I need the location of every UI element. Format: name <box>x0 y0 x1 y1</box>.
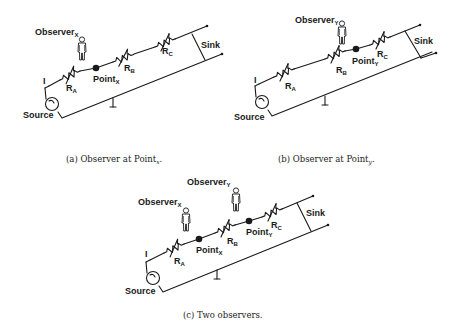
source-label: Source <box>23 110 54 120</box>
rc-label: RC <box>377 49 389 60</box>
resistor-rb-icon <box>322 44 347 64</box>
current-source-icon <box>45 86 59 111</box>
caption-c: (c) Two observers. <box>183 310 263 320</box>
sink-label: Sink <box>414 36 434 46</box>
rc-label: RC <box>271 220 283 231</box>
panel-b: ObserverY I RA RB PointY RC Sink Source <box>234 15 437 122</box>
point-x-label: PointX <box>196 245 223 256</box>
rb-label: RB <box>227 236 239 247</box>
observer-y-figure-icon <box>338 21 346 44</box>
observer-x-label: ObserverX <box>138 197 182 208</box>
current-label: I <box>145 249 148 259</box>
return-wire <box>58 54 222 118</box>
source-label: Source <box>234 112 265 122</box>
ra-label: RA <box>285 81 297 92</box>
observer-x-figure-icon <box>78 37 86 60</box>
ground-icon <box>322 96 328 105</box>
sink-label: Sink <box>201 40 221 50</box>
caption-a: (a) Observer at Pointx. <box>66 154 162 165</box>
observer-x-figure-icon <box>182 208 190 231</box>
sink-label: Sink <box>306 208 326 218</box>
rb-label: RB <box>336 65 348 76</box>
resistor-rc-icon <box>367 30 392 50</box>
ra-label: RA <box>174 256 186 267</box>
resistor-rb-icon <box>212 218 237 238</box>
point-y-label: PointY <box>246 227 273 238</box>
point-x-label: PointX <box>93 74 120 85</box>
current-source-icon <box>146 260 160 285</box>
rc-label: RC <box>162 46 174 57</box>
ground-icon <box>110 98 116 107</box>
observer-y-figure-icon <box>232 188 240 211</box>
point-y-label: PointY <box>352 56 379 67</box>
caption-b: (b) Observer at Pointy. <box>278 154 375 166</box>
current-label: I <box>43 76 46 86</box>
observer-y-label: ObserverY <box>187 177 231 188</box>
current-source-icon <box>255 84 269 109</box>
panel-c: ObserverX ObserverY I RA PointX RB Point… <box>125 177 329 296</box>
resistor-ra-icon <box>271 62 296 82</box>
observer-x-label: ObserverX <box>35 27 79 38</box>
rb-label: RB <box>124 63 136 74</box>
ra-label: RA <box>66 83 78 94</box>
source-label: Source <box>125 286 156 296</box>
panel-a: ObserverX I RA PointX RB RC Sink Source <box>23 25 223 120</box>
current-label: I <box>254 75 257 85</box>
figure-canvas: ObserverX I RA PointX RB RC Sink Source <box>0 0 459 328</box>
observer-y-label: ObserverY <box>295 15 339 26</box>
